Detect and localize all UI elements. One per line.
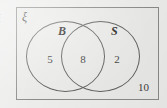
venn-diagram-figure: ξ ξ B S 5 8 2 10: [0, 0, 167, 108]
count-b-only: 5: [43, 54, 57, 65]
set-label-b: B: [58, 25, 66, 37]
clipped-edge-glyph-artifact: ξ: [0, 9, 7, 26]
count-outside-sets: 10: [138, 82, 149, 93]
count-s-only: 2: [110, 54, 124, 65]
universal-set-symbol: ξ: [22, 11, 27, 23]
set-circle-s: [61, 21, 140, 92]
set-label-s: S: [111, 25, 118, 37]
count-intersection: 8: [76, 54, 90, 65]
